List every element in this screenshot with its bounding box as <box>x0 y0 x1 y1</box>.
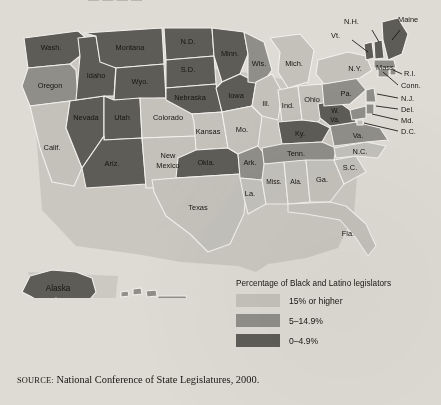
state-del[interactable] <box>366 104 374 114</box>
label-nc: N.C. <box>353 147 368 156</box>
label-minn: Minn. <box>221 49 239 58</box>
label-calif: Calif. <box>44 143 61 152</box>
label-nd: N.D. <box>181 37 196 46</box>
label-ny: N.Y. <box>348 64 361 73</box>
legend-swatch-low <box>236 334 280 347</box>
label-ohio: Ohio <box>304 95 320 104</box>
callout-label-del: Del. <box>401 105 414 114</box>
callout-label-dc: D.C. <box>401 127 416 136</box>
label-texas: Texas <box>188 203 208 212</box>
callout-label-nj: N.J. <box>401 94 414 103</box>
callout-label-nh: N.H. <box>344 17 359 26</box>
label-nebraska: Nebraska <box>174 93 207 102</box>
legend-row-mid[interactable]: 5–14.9% <box>236 312 439 329</box>
state-md[interactable] <box>350 106 366 120</box>
label-wash: Wash. <box>41 43 62 52</box>
label-ariz: Ariz. <box>105 159 120 168</box>
cropped-caption-text: — — — — <box>88 0 142 5</box>
state-maine[interactable] <box>382 18 408 60</box>
label-alaska: Alaska <box>46 284 71 293</box>
state-ny[interactable] <box>316 52 372 84</box>
legend-row-high[interactable]: 15% or higher <box>236 292 439 309</box>
legend-label-high: 15% or higher <box>289 296 343 306</box>
label-ind: Ind. <box>282 101 294 110</box>
map-figure: — — — — <box>0 0 441 405</box>
label-fla: Fla. <box>342 229 354 238</box>
map-svg: Wash. Oregon Calif. Nevada Idaho Montana… <box>0 8 441 298</box>
label-ky: Ky. <box>295 129 305 138</box>
source-prefix: SOURCE: <box>17 376 54 385</box>
label-va: Va. <box>353 131 364 140</box>
label-sd: S.D. <box>181 65 195 74</box>
label-newmexico-line2: Mexico <box>156 161 179 170</box>
leader-line-nh <box>372 30 379 42</box>
label-wyo: Wyo. <box>132 77 149 86</box>
legend-title: Percentage of Black and Latino legislato… <box>236 279 439 288</box>
label-iowa: Iowa <box>228 91 245 100</box>
map-legend: Percentage of Black and Latino legislato… <box>236 279 439 352</box>
state-nh[interactable] <box>374 40 384 59</box>
label-tenn: Tenn. <box>287 149 305 158</box>
label-idaho: Idaho <box>87 71 106 80</box>
label-wis: Wis. <box>252 59 266 68</box>
state-hawaii[interactable] <box>121 288 190 298</box>
leader-line-nj <box>377 94 398 98</box>
legend-row-low[interactable]: 0–4.9% <box>236 332 439 349</box>
label-newmexico-line1: New <box>161 151 176 160</box>
label-oregon: Oregon <box>38 81 63 90</box>
callout-label-vt: Vt. <box>331 31 340 40</box>
label-pa: Pa. <box>340 89 351 98</box>
source-note: SOURCE: National Conference of State Leg… <box>17 374 437 385</box>
label-montana: Montana <box>116 43 146 52</box>
state-nj[interactable] <box>366 88 376 102</box>
label-colorado: Colorado <box>153 113 183 122</box>
label-mich: Mich. <box>285 59 303 68</box>
label-miss: Miss. <box>266 178 282 185</box>
leader-line-md <box>372 114 398 120</box>
leader-line-del <box>376 106 398 109</box>
state-dc[interactable] <box>357 120 363 125</box>
legend-label-low: 0–4.9% <box>289 336 318 346</box>
callout-label-conn: Conn. <box>401 81 421 90</box>
label-ark: Ark. <box>243 158 256 167</box>
label-utah: Utah <box>114 113 130 122</box>
legend-swatch-high <box>236 294 280 307</box>
label-sc: S.C. <box>343 163 357 172</box>
legend-label-mid: 5–14.9% <box>289 316 323 326</box>
label-nevada: Nevada <box>73 113 99 122</box>
callout-label-mass: Mass. <box>376 63 396 72</box>
state-vt[interactable] <box>364 42 374 60</box>
callout-label-md: Md. <box>401 116 413 125</box>
callout-label-ri: R.I. <box>404 69 416 78</box>
legend-swatch-mid <box>236 314 280 327</box>
label-ala: Ala. <box>290 178 302 185</box>
source-text: National Conference of State Legislature… <box>56 374 259 385</box>
label-kansas: Kansas <box>196 127 221 136</box>
label-mo: Mo. <box>236 125 248 134</box>
label-la: La. <box>245 189 255 198</box>
label-wva-line2: Va. <box>330 116 340 123</box>
label-ga: Ga. <box>316 175 328 184</box>
label-wva-line1: W. <box>331 107 339 114</box>
label-ill: Ill. <box>262 99 269 108</box>
label-okla: Okla. <box>197 158 214 167</box>
us-choropleth-map: Wash. Oregon Calif. Nevada Idaho Montana… <box>0 8 441 298</box>
callout-label-maine: Maine <box>398 15 418 24</box>
